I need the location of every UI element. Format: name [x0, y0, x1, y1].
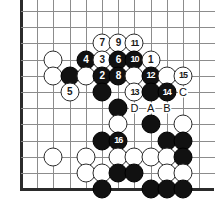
move-number: 3	[99, 54, 104, 64]
go-board-diagram: 57911436101281215131416 CDAB	[0, 0, 215, 210]
grid-line-vertical	[199, 0, 200, 189]
move-number: 5	[67, 87, 72, 97]
move-number: 6	[116, 54, 121, 64]
grid-line-horizontal	[21, 27, 215, 28]
move-number: 9	[116, 38, 121, 48]
move-number: 15	[179, 71, 187, 80]
board-edge-left	[20, 0, 23, 191]
move-number: 12	[147, 71, 155, 80]
stone-black[interactable]	[125, 164, 144, 183]
move-number: 1	[148, 54, 153, 64]
move-number: 10	[130, 55, 138, 64]
move-number: 7	[99, 38, 104, 48]
move-number: 14	[163, 87, 171, 96]
letter-marker-a[interactable]: A	[146, 103, 155, 114]
stone-white[interactable]	[44, 147, 63, 166]
stone-white-move-15[interactable]: 15	[174, 66, 193, 85]
stone-black[interactable]	[141, 115, 160, 134]
move-number: 13	[130, 87, 138, 96]
move-number: 8	[116, 70, 121, 80]
stone-black-move-14[interactable]: 14	[157, 83, 176, 102]
move-number: 16	[114, 136, 122, 145]
grid-line-vertical	[37, 0, 38, 189]
stone-white-move-5[interactable]: 5	[60, 83, 79, 102]
stone-black[interactable]	[93, 83, 112, 102]
move-number: 11	[131, 38, 139, 47]
stone-black[interactable]	[174, 180, 193, 199]
stone-black[interactable]	[93, 180, 112, 199]
letter-marker-d[interactable]: D	[129, 103, 139, 114]
letter-marker-c[interactable]: C	[178, 87, 188, 98]
letter-marker-b[interactable]: B	[162, 103, 171, 114]
move-number: 2	[99, 70, 104, 80]
grid-line-horizontal	[21, 11, 215, 12]
move-number: 4	[83, 54, 88, 64]
